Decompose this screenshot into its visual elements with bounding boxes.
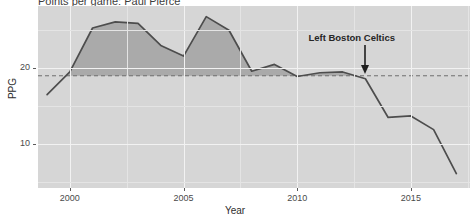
annotation-arrow-down-icon: [358, 45, 372, 75]
gridline-horizontal-minor: [38, 30, 470, 31]
gridline-horizontal-minor: [38, 182, 470, 183]
gridline-vertical-major: [184, 6, 185, 188]
x-tick-label: 2005: [164, 193, 204, 203]
x-tick-label: 2000: [50, 193, 90, 203]
y-tick-mark: [33, 144, 36, 145]
x-tick-mark: [184, 188, 185, 191]
gridline-horizontal-major: [38, 68, 470, 69]
gridline-vertical-major: [297, 6, 298, 188]
plot-area: [38, 6, 470, 188]
gridline-horizontal-minor: [38, 106, 470, 107]
x-tick-mark: [297, 188, 298, 191]
plot-panel: [38, 6, 470, 188]
x-tick-label: 2010: [277, 193, 317, 203]
annotation-label: Left Boston Celtics: [308, 32, 395, 43]
gridline-vertical-minor: [127, 6, 128, 188]
gridline-vertical-major: [411, 6, 412, 188]
y-tick-label: 20: [8, 62, 30, 72]
x-axis-title: Year: [0, 205, 470, 216]
gridline-vertical-minor: [468, 6, 469, 188]
y-tick-label: 10: [8, 138, 30, 148]
x-tick-mark: [411, 188, 412, 191]
chart-root: Points per game: Paul Pierce PPG Year 10…: [0, 0, 470, 221]
y-axis-title: PPG: [7, 78, 18, 99]
gridline-horizontal-major: [38, 144, 470, 145]
gridline-vertical-major: [70, 6, 71, 188]
y-tick-mark: [33, 68, 36, 69]
x-tick-label: 2015: [391, 193, 431, 203]
gridline-vertical-minor: [240, 6, 241, 188]
x-tick-mark: [70, 188, 71, 191]
